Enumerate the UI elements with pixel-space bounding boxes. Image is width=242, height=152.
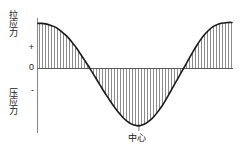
axis-tick-minus: -: [22, 85, 34, 95]
hatch-region-compressive-middle: [0, 0, 242, 152]
center-label: 中心: [128, 131, 146, 144]
stress-distribution-figure: 拉应力 压应力 中心 + 0 -: [0, 0, 242, 152]
axis-tick-zero: 0: [22, 62, 34, 72]
stress-curve-plot: [0, 0, 242, 152]
compressive-stress-label: 压应力: [8, 88, 17, 115]
axis-tick-plus: +: [22, 42, 34, 52]
tensile-stress-label: 拉应力: [8, 10, 17, 37]
